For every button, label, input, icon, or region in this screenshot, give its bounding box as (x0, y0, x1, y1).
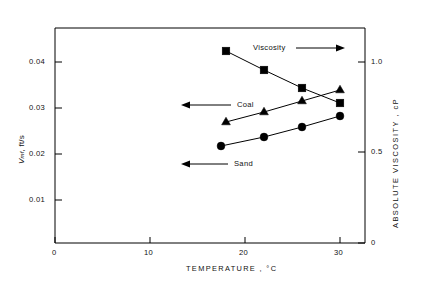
data-point-sand (217, 142, 225, 150)
annotation-label-viscosity: Viscosity (253, 44, 286, 52)
y-axis-left-title: Vmf, ft/s (18, 135, 26, 164)
x-axis-title: TEMPERATURE , °C (186, 265, 277, 272)
y-right-tick-label-05: 0.5 (371, 148, 382, 156)
series-sand (217, 112, 344, 150)
data-point-viscosity (298, 84, 306, 92)
figure-container: 0 10 20 30 0.01 0.02 0.03 0.04 0 0.5 1.0… (0, 0, 434, 291)
y-axis-left-ticks (55, 62, 62, 200)
y-axis-left-title-subscript: mf (19, 151, 25, 158)
y-left-tick-label-002: 0.02 (29, 150, 45, 158)
data-point-coal (336, 85, 345, 93)
x-tick-label-30: 30 (334, 249, 343, 257)
data-point-viscosity (336, 99, 344, 107)
data-point-sand (336, 112, 344, 120)
x-tick-label-0: 0 (52, 249, 57, 257)
x-tick-label-10: 10 (144, 249, 153, 257)
y-axis-left-title-symbol: V (17, 158, 26, 164)
y-right-tick-label-0: 0 (371, 239, 376, 247)
annotation-label-sand: Sand (234, 160, 253, 168)
y-left-tick-label-003: 0.03 (29, 104, 45, 112)
annotation-arrow-sand (181, 161, 228, 168)
annotation-arrow-coal (181, 102, 231, 109)
y-left-tick-label-004: 0.04 (29, 58, 45, 66)
y-left-tick-label-001: 0.01 (29, 196, 45, 204)
chart-canvas (0, 0, 434, 291)
series-viscosity (222, 47, 344, 107)
annotation-arrow-viscosity (296, 45, 345, 52)
y-axis-right-ticks (358, 62, 365, 243)
x-axis-ticks (55, 237, 340, 243)
data-point-sand (298, 123, 306, 131)
data-point-viscosity (260, 66, 268, 74)
y-axis-left-title-unit: , ft/s (17, 135, 26, 151)
annotation-label-coal: Coal (237, 101, 254, 109)
y-axis-right-title: ABSOLUTE VISCOSITY , cP (392, 98, 399, 228)
data-point-viscosity (222, 47, 230, 55)
y-right-tick-label-10: 1.0 (371, 58, 382, 66)
x-tick-label-20: 20 (239, 249, 248, 257)
plot-frame (55, 28, 365, 243)
data-point-sand (260, 133, 268, 141)
